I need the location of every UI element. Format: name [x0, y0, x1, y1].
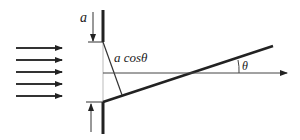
label-a: a — [80, 10, 87, 25]
label-theta: θ — [242, 59, 248, 73]
diffraction-diagram: a a cosθ θ — [0, 0, 300, 140]
label-a-cos-theta: a cosθ — [114, 50, 148, 65]
incident-wave-arrows — [16, 48, 62, 96]
angle-arc — [238, 60, 239, 73]
